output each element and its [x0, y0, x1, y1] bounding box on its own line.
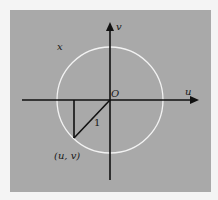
radius-label: 1: [94, 118, 100, 128]
v-axis-arrow-icon: [106, 22, 114, 31]
unit-circle-diagram: [0, 0, 218, 200]
v-axis-label: v: [116, 22, 122, 32]
corner-label: x: [57, 42, 63, 52]
u-axis-label: u: [185, 87, 191, 97]
point-label: (u, v): [54, 151, 80, 161]
origin-label: O: [111, 89, 119, 99]
u-axis-arrow-icon: [190, 96, 199, 104]
radius-segment: [74, 100, 110, 138]
